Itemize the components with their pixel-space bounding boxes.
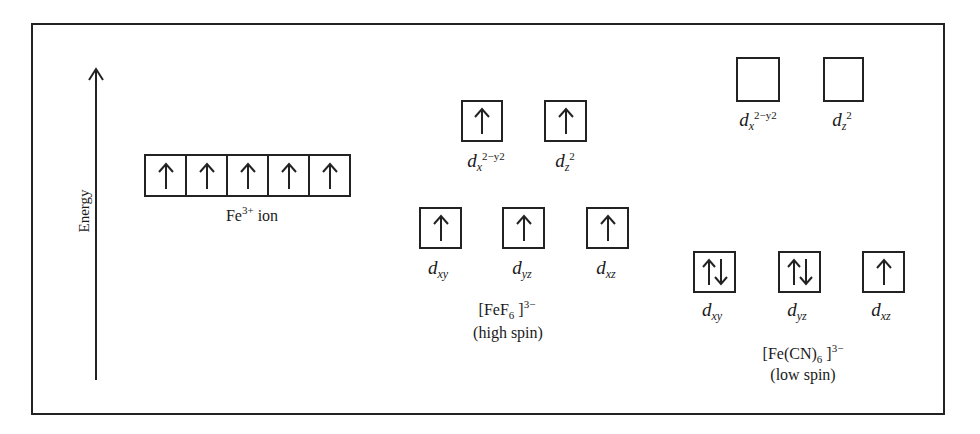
spin-up-arrow-icon <box>320 161 340 191</box>
high-spin-dyz-box <box>502 207 545 249</box>
spin-up-arrow-icon <box>514 213 534 243</box>
low-spin-dx2y2-label: dx2−y2 <box>739 110 777 132</box>
orbital-box <box>144 154 187 197</box>
low-spin-dz2-box <box>823 57 864 102</box>
low-spin-dyz-box <box>778 251 821 293</box>
spin-up-arrow-icon <box>279 161 299 191</box>
spin-pair-arrows-icon <box>785 257 815 287</box>
high-spin-dxz-box <box>586 207 629 249</box>
low-spin-dxy-label: dxy <box>702 300 722 322</box>
spin-up-arrow-icon <box>431 213 451 243</box>
low-spin-label: (low spin) <box>770 367 835 383</box>
spin-up-arrow-icon <box>874 257 894 287</box>
high-spin-dx2y2-label: dx2−y2 <box>467 151 505 173</box>
low-spin-dz2-label: dz2 <box>832 110 852 132</box>
free-ion-label: Fe3+ ion <box>226 205 278 224</box>
energy-axis-arrowhead-icon <box>88 66 104 82</box>
high-spin-dxy-box <box>419 207 462 249</box>
high-spin-complex-formula: [FeF6 ]3− <box>479 299 536 321</box>
low-spin-complex-formula: [Fe(CN)6 ]3− <box>763 343 844 365</box>
spin-up-arrow-icon <box>556 106 576 136</box>
orbital-box <box>267 154 310 197</box>
high-spin-dxz-label: dxz <box>596 258 616 280</box>
low-spin-dyz-label: dyz <box>787 300 807 322</box>
spin-up-arrow-icon <box>156 161 176 191</box>
high-spin-dz2-box <box>544 100 587 142</box>
low-spin-dxy-box <box>693 251 736 293</box>
high-spin-dyz-label: dyz <box>512 258 532 280</box>
orbital-box <box>308 154 351 197</box>
low-spin-dx2y2-box <box>736 57 780 102</box>
high-spin-dxy-label: dxy <box>428 258 448 280</box>
orbital-box <box>226 154 269 197</box>
spin-up-arrow-icon <box>472 106 492 136</box>
spin-up-arrow-icon <box>598 213 618 243</box>
free-ion-orbital-row <box>144 154 351 197</box>
low-spin-dxz-label: dxz <box>871 300 891 322</box>
energy-axis-label: Energy <box>75 189 93 233</box>
spin-up-arrow-icon <box>238 161 258 191</box>
spin-up-arrow-icon <box>197 161 217 191</box>
high-spin-dx2y2-box <box>461 100 503 142</box>
energy-axis-line <box>95 70 97 380</box>
spin-pair-arrows-icon <box>700 257 730 287</box>
high-spin-dz2-label: dz2 <box>555 151 575 173</box>
low-spin-dxz-box <box>862 251 905 293</box>
high-spin-label: (high spin) <box>473 325 543 341</box>
orbital-box <box>185 154 228 197</box>
